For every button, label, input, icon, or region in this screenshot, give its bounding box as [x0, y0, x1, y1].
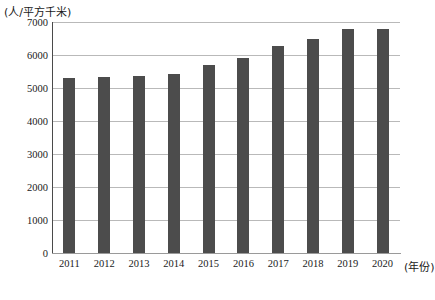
- bar-2012: [98, 77, 110, 253]
- x-tick-label-2019: 2019: [330, 258, 365, 269]
- bar-slot: [226, 22, 261, 253]
- x-tick-label-2014: 2014: [156, 258, 191, 269]
- y-tick-label-2000: 2000: [4, 182, 48, 193]
- bar-slot: [156, 22, 191, 253]
- x-tick-label-2013: 2013: [122, 258, 157, 269]
- bar-2016: [237, 58, 249, 253]
- x-axis-unit-label: (年份): [404, 258, 435, 274]
- y-tick-label-7000: 7000: [4, 17, 48, 28]
- bar-2011: [63, 78, 75, 253]
- x-tick-label-2020: 2020: [365, 258, 400, 269]
- y-axis-tick-labels: 01000200030004000500060007000: [0, 22, 48, 253]
- bar-slot: [296, 22, 331, 253]
- x-axis-line: [52, 253, 401, 254]
- bar-series: [52, 22, 400, 253]
- bar-2013: [133, 76, 145, 253]
- bar-slot: [261, 22, 296, 253]
- y-tick-label-4000: 4000: [4, 116, 48, 127]
- bar-slot: [87, 22, 122, 253]
- y-tick-label-0: 0: [4, 248, 48, 259]
- bar-slot: [330, 22, 365, 253]
- x-tick-label-2016: 2016: [226, 258, 261, 269]
- bar-slot: [52, 22, 87, 253]
- x-tick-label-2012: 2012: [87, 258, 122, 269]
- bar-slot: [365, 22, 400, 253]
- y-tick-label-3000: 3000: [4, 149, 48, 160]
- bar-2017: [272, 46, 284, 253]
- bar-slot: [191, 22, 226, 253]
- x-tick-label-2017: 2017: [261, 258, 296, 269]
- x-axis-tick-labels: 2011201220132014201520162017201820192020: [52, 256, 400, 278]
- bar-2020: [377, 29, 389, 253]
- x-tick-label-2018: 2018: [296, 258, 331, 269]
- y-tick-label-6000: 6000: [4, 50, 48, 61]
- y-tick-label-5000: 5000: [4, 83, 48, 94]
- y-tick-label-1000: 1000: [4, 215, 48, 226]
- bar-slot: [122, 22, 157, 253]
- bar-2018: [307, 39, 319, 253]
- bar-2015: [203, 65, 215, 253]
- bar-2014: [168, 74, 180, 253]
- x-tick-label-2011: 2011: [52, 258, 87, 269]
- x-tick-label-2015: 2015: [191, 258, 226, 269]
- bar-2019: [342, 29, 354, 253]
